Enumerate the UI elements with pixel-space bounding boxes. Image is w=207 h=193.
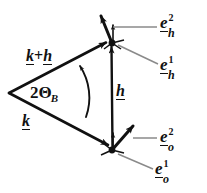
label-e-o-1: e1o bbox=[155, 160, 163, 178]
label-k: k bbox=[22, 113, 30, 130]
label-e-o-2-subscript: o bbox=[168, 141, 174, 153]
label-e-h-1: e1h bbox=[160, 56, 168, 74]
label-e-h-2-subscript: h bbox=[168, 27, 175, 39]
label-h-base: h bbox=[116, 83, 125, 100]
vector-h bbox=[112, 47, 113, 147]
leader-line-e-h-1 bbox=[118, 45, 158, 64]
vector-e-h-2 bbox=[101, 16, 112, 43]
label-h: h bbox=[116, 83, 125, 100]
label-two-theta-subscript: B bbox=[51, 92, 58, 104]
label-e-h-1-subscript: h bbox=[168, 69, 175, 81]
label-e-h-2-base: e bbox=[160, 14, 168, 32]
label-k-plus-h: k+h bbox=[26, 48, 52, 65]
scattering-vector-diagram: k+h k h 2ΘB e2h e1h e2o e1o bbox=[0, 0, 207, 193]
vector-e-o-2 bbox=[112, 126, 133, 150]
label-e-h-2: e2h bbox=[160, 14, 168, 32]
label-two-theta-b: 2ΘB bbox=[30, 84, 58, 101]
label-k-plus-h-h: h bbox=[43, 48, 52, 65]
label-e-o-1-subscript: o bbox=[163, 173, 169, 185]
label-e-o-1-base: e bbox=[155, 160, 163, 178]
label-e-o-2-base: e bbox=[160, 128, 168, 146]
label-e-h-1-superscript: 1 bbox=[169, 55, 174, 65]
label-e-o-2: e2o bbox=[160, 128, 168, 146]
angle-marker-2theta-b bbox=[80, 66, 89, 117]
label-e-o-2-superscript: 2 bbox=[169, 127, 174, 137]
label-k-base: k bbox=[22, 113, 30, 130]
leader-line-e-o-1 bbox=[118, 154, 153, 169]
label-e-o-1-superscript: 1 bbox=[164, 159, 169, 169]
label-k-plus-h-k: k bbox=[26, 48, 34, 65]
label-k-plus-h-operator: + bbox=[34, 47, 43, 64]
label-e-h-2-superscript: 2 bbox=[169, 13, 174, 23]
label-two-theta-text: 2Θ bbox=[30, 83, 52, 102]
label-e-h-1-base: e bbox=[160, 56, 168, 74]
